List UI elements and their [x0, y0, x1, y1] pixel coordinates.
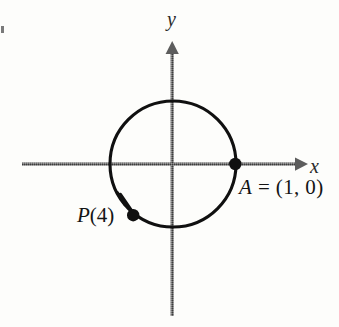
point-a-label: A = (1, 0) — [239, 177, 324, 198]
counterclockwise-travel-arrow — [118, 193, 133, 212]
x-axis-arrowhead — [295, 158, 308, 171]
point-p-marker — [127, 209, 139, 221]
unit-circle-figure: x y A = (1, 0) P(4) — [0, 0, 339, 327]
y-axis-arrowhead — [166, 41, 179, 54]
point-a-label-value: = (1, 0) — [252, 175, 323, 199]
point-p-label-value: (4) — [90, 203, 115, 227]
figure-canvas — [0, 0, 339, 327]
point-p-label: P(4) — [77, 205, 114, 226]
y-axis-line — [171, 46, 174, 316]
x-axis-line — [22, 163, 303, 166]
x-axis-label: x — [310, 156, 319, 176]
y-axis — [166, 41, 179, 316]
point-p-label-symbol: P — [77, 203, 90, 227]
point-a-marker — [229, 158, 241, 170]
scan-edge-artifact — [1, 26, 4, 33]
y-axis-label: y — [167, 9, 176, 29]
point-a-label-symbol: A — [239, 175, 252, 199]
x-axis — [22, 158, 308, 171]
